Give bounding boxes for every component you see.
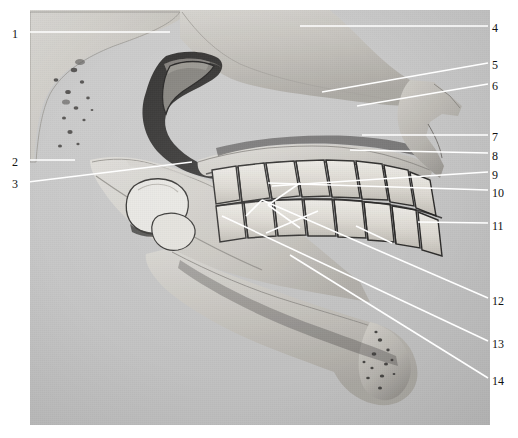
label-number-14: 14 — [492, 375, 504, 387]
label-number-6: 6 — [492, 80, 498, 92]
label-number-8: 8 — [492, 150, 498, 162]
label-number-7: 7 — [492, 131, 498, 143]
photo-vignette — [30, 10, 490, 425]
specimen-photograph — [30, 10, 490, 425]
label-number-10: 10 — [492, 187, 504, 199]
label-number-1: 1 — [0, 28, 18, 40]
label-number-9: 9 — [492, 169, 498, 181]
label-number-4: 4 — [492, 22, 498, 34]
label-number-13: 13 — [492, 338, 504, 350]
label-number-12: 12 — [492, 295, 504, 307]
anatomy-figure: 1234567891011121314 — [0, 0, 518, 438]
label-number-11: 11 — [492, 220, 504, 232]
label-number-5: 5 — [492, 59, 498, 71]
label-number-3: 3 — [0, 178, 18, 190]
label-number-2: 2 — [0, 156, 18, 168]
